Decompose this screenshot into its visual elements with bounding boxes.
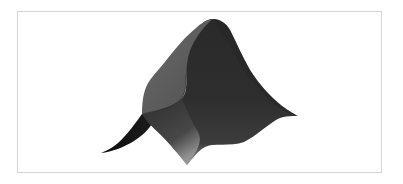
surface-plot [0,0,403,184]
surface-blade [101,114,152,153]
